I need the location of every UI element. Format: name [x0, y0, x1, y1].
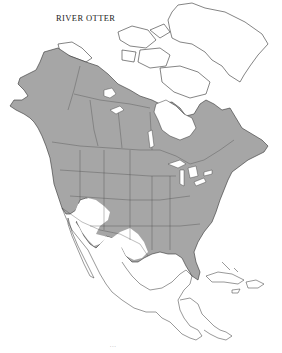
bahamas-outline: [222, 262, 238, 272]
range-map: [0, 0, 282, 353]
greenland-outline: [168, 3, 268, 82]
lake-michigan: [180, 170, 184, 186]
arctic-island: [160, 66, 210, 98]
cuba-outline: [206, 272, 244, 284]
central-america-outline: [180, 298, 232, 340]
hispaniola-outline: [246, 280, 264, 288]
footer-caption: ...: [110, 343, 117, 348]
arctic-island: [118, 26, 156, 48]
lake-huron: [188, 166, 198, 178]
arctic-island: [138, 48, 170, 68]
arctic-island: [122, 50, 136, 62]
jamaica-outline: [232, 289, 240, 293]
